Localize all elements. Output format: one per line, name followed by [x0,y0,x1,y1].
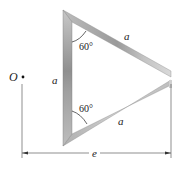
arrowhead-right [165,152,171,155]
right-gap-tip [169,80,172,88]
triangle-section-diagram: O e a a a 60° 60° [0,0,179,170]
left-member [63,10,72,146]
arrowhead-left [22,152,28,155]
point-o-dot [22,76,25,79]
angle-bottom-label: 60° [79,103,93,114]
side-top-label: a [124,30,130,42]
side-left-label: a [52,74,58,86]
side-bottom-label: a [118,115,124,127]
point-o-label: O [9,70,18,84]
dimension-e-label: e [92,147,97,159]
angle-top-label: 60° [79,41,93,52]
